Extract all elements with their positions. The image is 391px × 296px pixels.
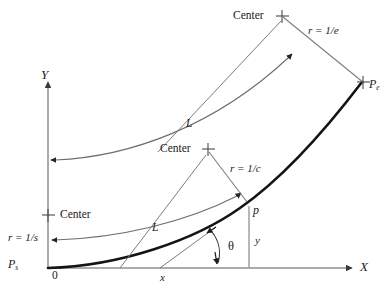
theta-angle-label: θ [228,240,234,253]
tangent-line [160,227,216,268]
axis-y-label: Y [41,68,48,81]
axis-x-label: X [360,260,368,273]
center-marker-mid [202,143,215,156]
diagram-canvas [0,0,391,296]
radius-label-end: r = 1/e [308,25,339,36]
point-end-subscript: e [376,83,379,92]
y-coordinate-label: y [255,235,260,246]
point-start-subscript: s [15,263,18,272]
radius-line-mid [209,152,247,202]
theta-angle-arc [212,232,219,264]
radius-line-mid-lower [120,155,206,268]
radius-label-mid: r = 1/c [230,163,261,174]
point-end-label: Pe [369,78,380,92]
center-marker-start [42,209,55,222]
radius-line-end-lower [158,21,281,152]
point-current-label: p [253,204,259,216]
center-label-end: Center [233,10,264,22]
center-marker-end [276,10,289,23]
arc-length-label-upper: L [186,118,192,130]
radius-label-start: r = 1/s [8,232,38,243]
x-coordinate-label: x [160,272,165,283]
center-label-mid: Center [160,143,191,155]
point-start-label: Ps [8,258,18,272]
arc-length-label-lower: L [152,222,158,234]
clothoid-geometry-figure: Y X 0 Ps Pe p Center Center Center r = 1… [0,0,391,296]
clothoid-curve [48,82,362,268]
center-label-start: Center [60,209,91,221]
origin-label: 0 [52,270,58,282]
